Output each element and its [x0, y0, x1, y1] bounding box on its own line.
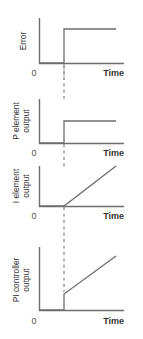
- plot-canvas: 0 Time Error 0 Time P element output 0 T…: [0, 0, 143, 339]
- panel-error-trace: [40, 29, 117, 63]
- panel-pi-controller-output: 0 Time PI controller output: [11, 247, 124, 326]
- panel-p-element-output-y-axis-label-line2: output: [21, 109, 31, 133]
- panel-p-element-output: 0 Time P element output: [11, 99, 124, 158]
- panel-error-x-origin-tick: 0: [31, 68, 36, 78]
- panel-error-x-axis-label: Time: [103, 68, 124, 78]
- panel-pi-controller-output-x-axis-label: Time: [103, 316, 124, 326]
- panel-i-element-output-trace: [40, 166, 117, 206]
- panel-error: 0 Time Error: [18, 18, 124, 78]
- panel-error-axes: [40, 18, 125, 64]
- panel-pi-controller-output-axes: [40, 247, 125, 311]
- panel-pi-controller-output-trace: [40, 256, 117, 310]
- panel-pi-controller-output-x-origin-tick: 0: [31, 316, 36, 326]
- panel-i-element-output-x-origin-tick: 0: [31, 211, 36, 221]
- panel-p-element-output-trace: [40, 121, 117, 143]
- panel-i-element-output-axes: [40, 166, 125, 207]
- panel-i-element-output-x-axis-label: Time: [103, 211, 124, 221]
- panel-p-element-output-x-axis-label: Time: [103, 148, 124, 158]
- panel-i-element-output: 0 Time I element output: [11, 166, 124, 221]
- panel-pi-controller-output-y-axis-label-line2: output: [21, 268, 31, 292]
- panel-error-y-axis-label: Error: [18, 31, 28, 50]
- panel-i-element-output-y-axis-label-line1: I element: [11, 168, 21, 203]
- panel-p-element-output-y-axis-label-line1: P element: [11, 102, 21, 140]
- panel-pi-controller-output-y-axis-label-line1: PI controller: [11, 257, 21, 302]
- pi-controller-response-figure: 0 Time Error 0 Time P element output 0 T…: [0, 0, 143, 339]
- panel-i-element-output-y-axis-label-line2: output: [21, 174, 31, 198]
- panel-p-element-output-x-origin-tick: 0: [31, 148, 36, 158]
